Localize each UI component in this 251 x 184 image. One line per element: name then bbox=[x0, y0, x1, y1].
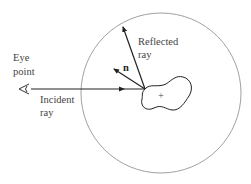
eye-icon bbox=[19, 84, 29, 94]
reflected-ray-label: Reflected bbox=[138, 36, 179, 47]
normal-label: n bbox=[123, 62, 129, 73]
normal-vector bbox=[114, 69, 145, 89]
incident-arrowhead-icon bbox=[119, 87, 125, 92]
reflected-ray-label-2: ray bbox=[138, 49, 152, 60]
incident-ray-label-2: ray bbox=[40, 107, 54, 118]
object-center-marker: + bbox=[158, 90, 164, 101]
ray-tracing-diagram: + Eye point Incident ray Reflected ray n bbox=[0, 0, 251, 184]
scene-object bbox=[142, 77, 192, 111]
eye-point-label-2: point bbox=[13, 66, 35, 77]
incident-ray-label: Incident bbox=[40, 94, 74, 105]
eye-point-label: Eye bbox=[13, 52, 30, 63]
